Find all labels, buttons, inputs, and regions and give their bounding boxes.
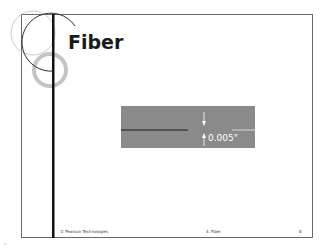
corner-mark: " bbox=[4, 242, 6, 248]
arrow-down-icon bbox=[202, 112, 206, 126]
footer-section: 4. Fiber bbox=[206, 229, 221, 234]
dimension-label: 0.005" bbox=[208, 133, 238, 143]
footer-page-number: 8 bbox=[299, 229, 302, 234]
footer-copyright: © Pearson Technologies bbox=[60, 229, 108, 234]
fiber-figure: 0.005" bbox=[121, 106, 255, 148]
slide-title: Fiber bbox=[68, 31, 123, 53]
arrow-up-icon bbox=[202, 133, 206, 146]
